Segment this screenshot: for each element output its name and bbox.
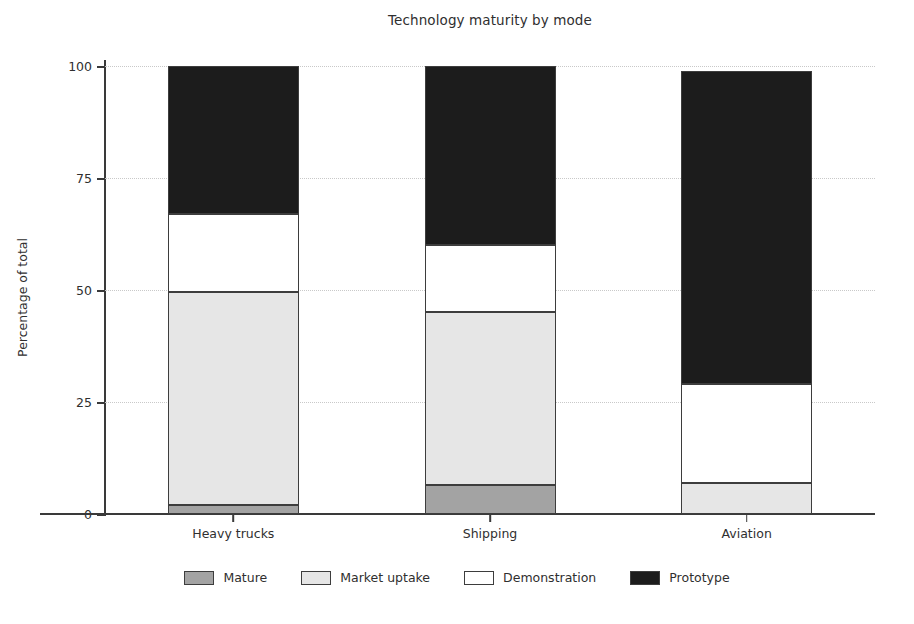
legend-label-market-uptake: Market uptake xyxy=(340,570,430,585)
y-tick-label-50: 50 xyxy=(36,283,92,298)
bar-aviation[interactable] xyxy=(681,66,812,514)
x-tick-label-shipping: Shipping xyxy=(463,526,518,541)
bar-segment-shipping-mature[interactable] xyxy=(425,485,556,514)
chart-title: Technology maturity by mode xyxy=(105,12,875,28)
chart-figure: Technology maturity by mode Percentage o… xyxy=(0,0,914,624)
x-tick-label-aviation: Aviation xyxy=(722,526,772,541)
legend-item-market-uptake[interactable]: Market uptake xyxy=(301,570,430,585)
legend-item-mature[interactable]: Mature xyxy=(184,570,267,585)
y-tick-label-75: 75 xyxy=(36,171,92,186)
bar-segment-heavy-trucks-demonstration[interactable] xyxy=(168,214,299,292)
y-tick-mark-75 xyxy=(97,178,105,180)
bar-segment-heavy-trucks-prototype[interactable] xyxy=(168,66,299,214)
x-tick-mark-2 xyxy=(746,515,748,522)
legend-label-demonstration: Demonstration xyxy=(503,570,596,585)
bar-segment-shipping-prototype[interactable] xyxy=(425,66,556,245)
legend-label-mature: Mature xyxy=(223,570,267,585)
y-tick-mark-50 xyxy=(97,290,105,292)
y-tick-label-100: 100 xyxy=(36,59,92,74)
x-tick-mark-1 xyxy=(489,515,491,522)
bar-segment-aviation-market-uptake[interactable] xyxy=(681,483,812,514)
y-tick-mark-25 xyxy=(97,402,105,404)
x-tick-mark-0 xyxy=(233,515,235,522)
y-axis-label: Percentage of total xyxy=(15,128,30,468)
bar-segment-shipping-market-uptake[interactable] xyxy=(425,312,556,484)
y-tick-mark-0 xyxy=(97,514,105,516)
bar-segment-aviation-prototype[interactable] xyxy=(681,71,812,385)
chart-legend: MatureMarket uptakeDemonstrationPrototyp… xyxy=(0,570,914,585)
x-tick-label-heavy-trucks: Heavy trucks xyxy=(192,526,274,541)
legend-swatch-mature-icon xyxy=(184,571,214,585)
bar-shipping[interactable] xyxy=(425,66,556,514)
y-axis-tick-labels: 0255075100 xyxy=(30,0,92,624)
legend-swatch-prototype-icon xyxy=(630,571,660,585)
legend-label-prototype: Prototype xyxy=(669,570,729,585)
legend-item-prototype[interactable]: Prototype xyxy=(630,570,729,585)
y-tick-mark-100 xyxy=(97,66,105,68)
legend-swatch-market-uptake-icon xyxy=(301,571,331,585)
bar-segment-heavy-trucks-mature[interactable] xyxy=(168,505,299,514)
bar-segment-shipping-demonstration[interactable] xyxy=(425,245,556,312)
y-tick-label-25: 25 xyxy=(36,395,92,410)
bar-segment-aviation-demonstration[interactable] xyxy=(681,384,812,483)
legend-swatch-demonstration-icon xyxy=(464,571,494,585)
plot-area xyxy=(105,66,875,514)
bar-heavy-trucks[interactable] xyxy=(168,66,299,514)
legend-item-demonstration[interactable]: Demonstration xyxy=(464,570,596,585)
bar-segment-heavy-trucks-market-uptake[interactable] xyxy=(168,292,299,505)
